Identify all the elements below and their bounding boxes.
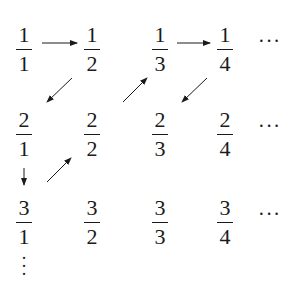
fraction-3-3: 3 3 <box>150 197 170 248</box>
fraction-1-3: 1 3 <box>150 24 170 75</box>
fraction-2-1: 2 1 <box>14 109 34 160</box>
fraction-bar <box>16 49 32 50</box>
denominator: 1 <box>14 138 34 160</box>
fraction-2-2: 2 2 <box>82 109 102 160</box>
fraction-1-2: 1 2 <box>82 24 102 75</box>
numerator: 3 <box>14 197 34 219</box>
numerator: 1 <box>14 24 34 46</box>
vdot: · <box>19 270 29 278</box>
numerator: 2 <box>150 109 170 131</box>
fraction-bar <box>152 49 168 50</box>
denominator: 3 <box>150 53 170 75</box>
denominator: 4 <box>215 53 235 75</box>
fraction-bar <box>217 134 233 135</box>
arrow-1-4-to-2-3 <box>182 78 207 102</box>
fraction-bar <box>84 134 100 135</box>
denominator: 1 <box>14 226 34 248</box>
numerator: 3 <box>82 197 102 219</box>
fraction-bar <box>152 134 168 135</box>
fraction-bar <box>152 222 168 223</box>
numerator: 3 <box>215 197 235 219</box>
fraction-bar <box>84 222 100 223</box>
row-3-ellipsis: ··· <box>258 203 281 226</box>
fraction-bar <box>217 49 233 50</box>
numerator: 2 <box>82 109 102 131</box>
arrow-3-1-to-2-2 <box>47 158 71 182</box>
fraction-2-3: 2 3 <box>150 109 170 160</box>
denominator: 3 <box>150 226 170 248</box>
fraction-bar <box>16 134 32 135</box>
row-2-ellipsis: ··· <box>258 115 281 138</box>
denominator: 2 <box>82 53 102 75</box>
denominator: 2 <box>82 226 102 248</box>
numerator: 2 <box>14 109 34 131</box>
fraction-2-4: 2 4 <box>215 109 235 160</box>
denominator: 4 <box>215 226 235 248</box>
fraction-bar <box>217 222 233 223</box>
row-1-ellipsis: ··· <box>258 30 281 53</box>
numerator: 3 <box>150 197 170 219</box>
denominator: 3 <box>150 138 170 160</box>
fraction-3-4: 3 4 <box>215 197 235 248</box>
fraction-bar <box>84 49 100 50</box>
numerator: 1 <box>82 24 102 46</box>
numerator: 1 <box>150 24 170 46</box>
fraction-1-4: 1 4 <box>215 24 235 75</box>
denominator: 1 <box>14 53 34 75</box>
column-ellipsis: · · · <box>19 254 29 278</box>
fraction-3-1: 3 1 <box>14 197 34 248</box>
denominator: 2 <box>82 138 102 160</box>
numerator: 2 <box>215 109 235 131</box>
arrow-2-2-to-1-3 <box>123 78 147 102</box>
arrow-1-2-to-2-1 <box>47 78 72 102</box>
fraction-1-1: 1 1 <box>14 24 34 75</box>
fraction-bar <box>16 222 32 223</box>
denominator: 4 <box>215 138 235 160</box>
fraction-3-2: 3 2 <box>82 197 102 248</box>
numerator: 1 <box>215 24 235 46</box>
